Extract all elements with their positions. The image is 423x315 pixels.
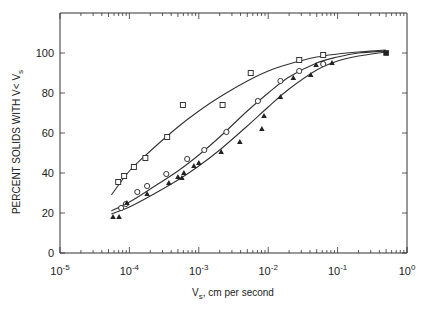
chart-plot: 10-510-410-310-210-1100 020406080100 Vs,… xyxy=(0,0,423,315)
y-tick-label: 0 xyxy=(48,247,54,259)
square-marker xyxy=(165,135,170,140)
x-axis-title: Vs, cm per second xyxy=(192,287,274,301)
triangle-marker xyxy=(237,139,243,144)
circle-marker xyxy=(255,98,260,103)
x-axis-title-rest: , cm per second xyxy=(203,287,274,298)
circle-marker xyxy=(321,61,326,66)
x-tick-labels: 10-510-410-310-210-1100 xyxy=(50,263,416,277)
square-marker xyxy=(143,156,148,161)
triangles-fit-curve xyxy=(111,52,386,214)
x-tick-label: 10-3 xyxy=(189,263,209,277)
triangle-marker xyxy=(166,180,172,185)
triangle-marker xyxy=(110,214,116,219)
square-marker xyxy=(180,103,185,108)
square-marker xyxy=(131,165,136,170)
triangle-marker xyxy=(261,113,267,118)
y-tick-label: 40 xyxy=(42,167,54,179)
circle-marker xyxy=(297,68,302,73)
x-tick-label: 10-4 xyxy=(120,263,140,277)
square-marker xyxy=(248,71,253,76)
triangle-marker xyxy=(259,126,265,131)
square-marker xyxy=(220,103,225,108)
triangle-marker xyxy=(196,160,202,165)
x-tick-label: 100 xyxy=(399,263,416,277)
x-tick-label: 10-2 xyxy=(259,263,279,277)
triangle-marker xyxy=(181,170,187,175)
y-tick-label: 80 xyxy=(42,87,54,99)
filled-square-marker xyxy=(383,50,389,56)
triangle-marker xyxy=(191,163,197,168)
circle-marker xyxy=(278,78,283,83)
triangle-marker xyxy=(116,214,122,219)
triangle-marker xyxy=(175,174,181,179)
square-marker xyxy=(321,53,326,58)
square-marker xyxy=(297,58,302,63)
y-tick-label: 60 xyxy=(42,127,54,139)
y-axis-title-main: PERCENT SOLIDS WITH V< V xyxy=(11,74,22,214)
data-markers xyxy=(110,50,389,219)
square-marker xyxy=(116,180,121,185)
y-axis-title-sub: s xyxy=(16,70,25,74)
chart: 10-510-410-310-210-1100 020406080100 Vs,… xyxy=(0,0,423,315)
circle-marker xyxy=(224,129,229,134)
x-tick-label: 10-1 xyxy=(328,263,348,277)
square-marker xyxy=(122,174,127,179)
circle-marker xyxy=(119,205,124,210)
y-axis-title: PERCENT SOLIDS WITH V< Vs xyxy=(11,70,25,214)
circle-marker xyxy=(164,171,169,176)
y-tick-label: 100 xyxy=(36,47,54,59)
y-tick-labels: 020406080100 xyxy=(36,47,54,259)
circle-marker xyxy=(145,183,150,188)
circle-marker xyxy=(202,147,207,152)
circle-marker xyxy=(135,189,140,194)
circle-marker xyxy=(185,156,190,161)
y-tick-label: 20 xyxy=(42,207,54,219)
x-tick-label: 10-5 xyxy=(50,263,70,277)
